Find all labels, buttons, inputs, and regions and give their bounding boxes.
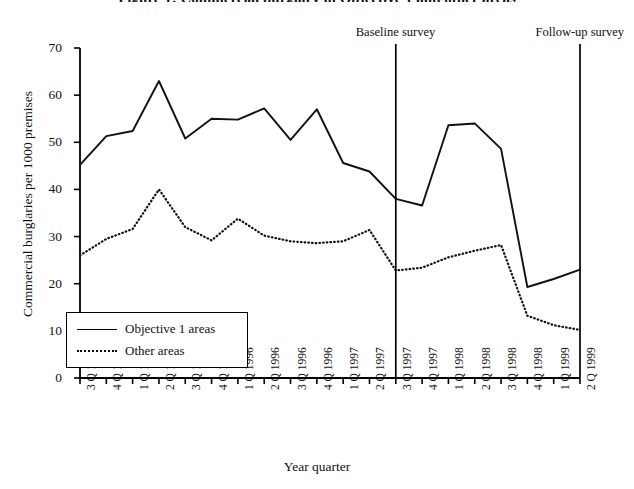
survey-annotation-label: Baseline survey bbox=[356, 25, 436, 40]
chart-legend: Objective 1 areas Other areas bbox=[66, 312, 248, 368]
legend-label-objective-1: Objective 1 areas bbox=[125, 321, 215, 337]
series-line-1 bbox=[80, 189, 580, 329]
legend-item-other: Other areas bbox=[77, 341, 185, 361]
legend-item-objective-1: Objective 1 areas bbox=[77, 319, 215, 339]
dotted-line-icon bbox=[77, 350, 117, 352]
plot-area bbox=[0, 0, 634, 489]
legend-label-other: Other areas bbox=[125, 343, 185, 359]
survey-annotation-label: Follow-up survey bbox=[536, 25, 625, 40]
chart-figure: Figure 1: Commercial burglary in Objecti… bbox=[0, 0, 634, 489]
solid-line-icon bbox=[77, 329, 117, 330]
